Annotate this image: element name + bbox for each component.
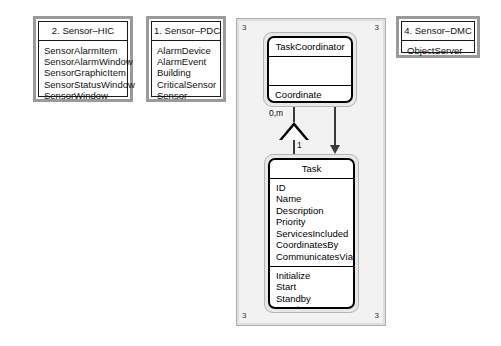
class-task-operations: Initialize Start Standby Terminate bbox=[270, 267, 353, 309]
package-class-item: SensorAlarmWindow bbox=[44, 56, 122, 67]
class-task-coordinator-operations: Coordinate bbox=[269, 86, 351, 104]
multiplicity-target-label: 1 bbox=[297, 141, 302, 150]
package-class-item: SensorGraphicItem bbox=[44, 67, 122, 78]
package-class-item: Building bbox=[157, 67, 215, 78]
package-class-item: SensorWindow bbox=[44, 90, 122, 101]
class-task-attributes: ID Name Description Priority ServicesInc… bbox=[270, 179, 353, 267]
package-sensor-dmc-title: 4. Sensor–DMC bbox=[402, 22, 474, 41]
class-operation-item: Terminate bbox=[276, 304, 348, 309]
class-task-coordinator-attributes bbox=[269, 57, 351, 86]
class-task-coordinator[interactable]: TaskCoordinator Coordinate bbox=[263, 32, 357, 107]
package-class-item: ObjectServer bbox=[407, 45, 469, 56]
class-attribute-item: ID bbox=[276, 182, 348, 194]
class-task-name: Task bbox=[270, 160, 353, 179]
package-class-item: CriticalSensor bbox=[157, 79, 215, 90]
package-sensor-pdc[interactable]: 1. Sensor–PDC AlarmDevice AlarmEvent Bui… bbox=[146, 16, 226, 102]
class-task[interactable]: Task ID Name Description Priority Servic… bbox=[264, 154, 359, 313]
subsystem-corner-label-bottom-left: 3 bbox=[242, 312, 246, 320]
package-class-item: SensorStatusWindow bbox=[44, 79, 122, 90]
package-class-item: Sensor bbox=[157, 90, 215, 101]
class-attribute-item: Name bbox=[276, 193, 348, 205]
class-task-coordinator-inner: TaskCoordinator Coordinate bbox=[267, 36, 353, 103]
class-task-coordinator-name: TaskCoordinator bbox=[269, 38, 351, 57]
class-operation-item: Standby bbox=[276, 293, 348, 305]
class-attribute-item: Priority bbox=[276, 216, 348, 228]
class-attribute-item: ServicesIncluded bbox=[276, 228, 348, 240]
package-sensor-pdc-class-list: AlarmDevice AlarmEvent Building Critical… bbox=[152, 41, 220, 105]
package-sensor-hic-title: 2. Sensor–HIC bbox=[39, 22, 127, 41]
aggregation-line-upper bbox=[293, 107, 295, 122]
package-class-item: AlarmDevice bbox=[157, 45, 215, 56]
class-attribute-item: CoordinatesBy bbox=[276, 239, 348, 251]
package-sensor-dmc[interactable]: 4. Sensor–DMC ObjectServer bbox=[396, 16, 480, 58]
package-sensor-pdc-inner: 1. Sensor–PDC AlarmDevice AlarmEvent Bui… bbox=[151, 21, 221, 97]
class-task-inner: Task ID Name Description Priority Servic… bbox=[268, 158, 355, 309]
class-operation-item: Start bbox=[276, 281, 348, 293]
package-class-item: AlarmEvent bbox=[157, 56, 215, 67]
package-sensor-hic[interactable]: 2. Sensor–HIC SensorAlarmItem SensorAlar… bbox=[33, 16, 133, 102]
package-sensor-pdc-title: 1. Sensor–PDC bbox=[152, 22, 220, 41]
association-arrowhead bbox=[330, 145, 340, 154]
multiplicity-source-label: 0,m bbox=[269, 109, 283, 118]
package-sensor-dmc-inner: 4. Sensor–DMC ObjectServer bbox=[401, 21, 475, 53]
package-class-item: SensorAlarmItem bbox=[44, 45, 122, 56]
class-attribute-item: CommunicatesVia bbox=[276, 251, 348, 263]
package-sensor-hic-inner: 2. Sensor–HIC SensorAlarmItem SensorAlar… bbox=[38, 21, 128, 97]
diagram-canvas: 2. Sensor–HIC SensorAlarmItem SensorAlar… bbox=[0, 0, 501, 346]
class-operation-item: Coordinate bbox=[275, 89, 346, 101]
subsystem-corner-label-bottom-right: 3 bbox=[375, 312, 379, 320]
package-sensor-hic-class-list: SensorAlarmItem SensorAlarmWindow Sensor… bbox=[39, 41, 127, 105]
package-sensor-dmc-class-list: ObjectServer bbox=[402, 41, 474, 59]
class-operation-item: Initialize bbox=[276, 270, 348, 282]
class-attribute-item: Description bbox=[276, 205, 348, 217]
aggregation-triangle-fill bbox=[282, 126, 306, 140]
subsystem-corner-label-top-right: 3 bbox=[375, 24, 379, 32]
aggregation-line-lower bbox=[293, 140, 295, 154]
subsystem-corner-label-top-left: 3 bbox=[242, 24, 246, 32]
subsystem-container[interactable]: 3 3 3 3 TaskCoordinator Coordinate 0,m 1 bbox=[236, 18, 386, 326]
association-line bbox=[334, 107, 336, 145]
